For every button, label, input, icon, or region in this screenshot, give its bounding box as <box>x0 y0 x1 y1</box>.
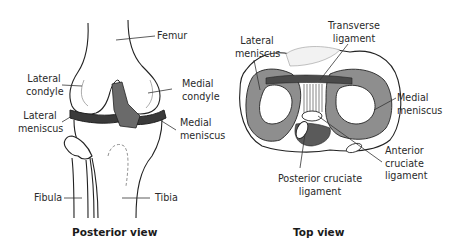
label-medial-meniscus-top-line1: Medial <box>397 92 442 105</box>
label-medial-condyle-line1: Medial <box>182 78 220 91</box>
label-transverse-ligament-line1: Transverse <box>326 20 382 33</box>
label-medial-condyle-line2: condyle <box>182 91 220 104</box>
label-medial-meniscus-posterior-line1: Medial <box>180 117 225 130</box>
label-pcl-line2: ligament <box>272 186 368 199</box>
top-view-drawing <box>240 47 401 155</box>
top-transverse-ligament <box>266 75 352 84</box>
label-lateral-meniscus-top: Lateral meniscus <box>235 35 279 60</box>
label-lateral-condyle-line2: condyle <box>26 86 62 99</box>
label-medial-meniscus-posterior: Medial meniscus <box>180 117 225 142</box>
label-lateral-meniscus-posterior-line1: Lateral <box>18 110 62 123</box>
label-medial-condyle: Medial condyle <box>182 78 220 103</box>
label-lateral-meniscus-top-line2: meniscus <box>235 48 279 61</box>
label-transverse-ligament-line2: ligament <box>326 33 382 46</box>
label-femur: Femur <box>157 30 187 43</box>
label-medial-meniscus-posterior-line2: meniscus <box>180 130 225 143</box>
label-anterior-cruciate-ligament: Anterior cruciate ligament <box>385 145 427 183</box>
label-tibia: Tibia <box>155 192 178 205</box>
label-posterior-cruciate-ligament: Posterior cruciate ligament <box>272 173 368 198</box>
tibia-fibula-drawing <box>64 120 162 218</box>
label-medial-meniscus-top: Medial meniscus <box>397 92 442 117</box>
tibia-outline <box>74 120 94 218</box>
fibula-outline <box>64 136 92 159</box>
label-acl-line2: cruciate <box>385 158 427 171</box>
diagram-artwork <box>0 0 457 248</box>
top-acl-attachment <box>302 111 322 121</box>
knee-anatomy-figure: Femur Lateral condyle Medial condyle Lat… <box>0 0 457 248</box>
label-acl-line1: Anterior <box>385 145 427 158</box>
label-lateral-meniscus-posterior: Lateral meniscus <box>18 110 62 135</box>
label-acl-line3: ligament <box>385 170 427 183</box>
label-lateral-meniscus-posterior-line2: meniscus <box>18 123 62 136</box>
label-fibula: Fibula <box>34 192 62 205</box>
label-pcl-line1: Posterior cruciate <box>272 173 368 186</box>
femur-outline <box>70 23 110 114</box>
label-lateral-condyle: Lateral condyle <box>26 73 62 98</box>
central-ligament-hatching <box>304 84 322 114</box>
label-lateral-meniscus-top-line1: Lateral <box>235 35 279 48</box>
caption-top-view: Top view <box>293 226 344 238</box>
label-transverse-ligament: Transverse ligament <box>326 20 382 45</box>
label-lateral-condyle-line1: Lateral <box>26 73 62 86</box>
label-medial-meniscus-top-line2: meniscus <box>397 105 442 118</box>
caption-posterior-view: Posterior view <box>72 226 157 238</box>
